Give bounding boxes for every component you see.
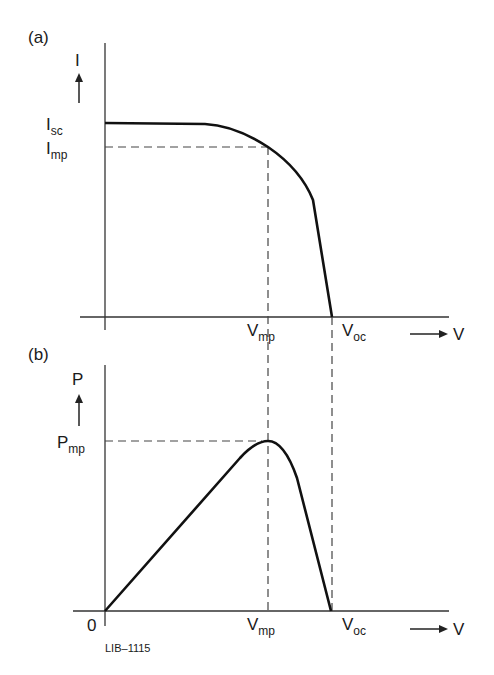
x-axis-label-voltage-b: V [453, 620, 465, 639]
iv-curve [105, 123, 332, 317]
y-axis-label-current: I [75, 51, 80, 70]
x-axis-label-voltage-a: V [453, 325, 465, 344]
isc-label: Isc [46, 115, 63, 138]
vmp-label-a: Vmp [247, 321, 275, 344]
figure-code-label: LIB–1115 [105, 642, 150, 654]
pmp-label: Pmp [57, 433, 85, 456]
panel-a: (a) I Isc Imp Vmp Voc V [28, 28, 465, 611]
imp-label: Imp [46, 139, 68, 162]
vmp-label-b: Vmp [247, 615, 275, 638]
y-axis-label-power: P [72, 370, 83, 389]
voc-label-b: Voc [342, 615, 366, 638]
iv-pv-curves-diagram: (a) I Isc Imp Vmp Voc V (b) P [0, 0, 494, 675]
arrow-up-icon [75, 73, 83, 103]
panel-b-label: (b) [28, 345, 49, 364]
arrow-right-icon [410, 625, 448, 633]
panel-a-label: (a) [28, 28, 49, 47]
pv-curve [105, 441, 331, 611]
origin-label: 0 [87, 616, 96, 635]
voc-label-a: Voc [342, 321, 366, 344]
arrow-right-icon [410, 330, 448, 338]
arrow-up-icon [75, 394, 83, 426]
panel-b: (b) P Pmp 0 Vmp Voc V LIB–1115 [28, 345, 465, 654]
